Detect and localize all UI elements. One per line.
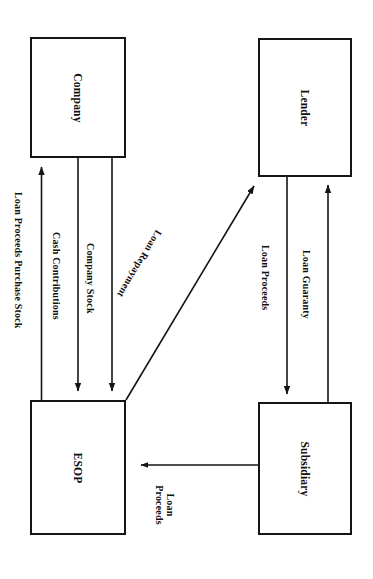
edge-label-loan-guaranty: Loan Guaranty [301, 250, 312, 319]
node-esop[interactable]: ESOP [30, 400, 126, 535]
edge-loan-repayment-line [126, 186, 254, 400]
node-company[interactable]: Company [30, 37, 126, 158]
edge-label-loan-proceeds-subsidiary-line1: Loan [165, 474, 176, 536]
edge-label-loan-proceeds-lender: Loan Proceeds [260, 245, 271, 310]
node-subsidiary-label: Subsidiary [299, 441, 311, 496]
node-company-label: Company [72, 73, 84, 122]
edge-label-loan-proceeds-subsidiary: Loan Proceeds [154, 474, 175, 536]
edge-label-loan-proceeds-subsidiary-line2: Proceeds [154, 474, 165, 536]
edge-label-cash-contributions: Cash Contributions [51, 232, 62, 320]
node-lender[interactable]: Lender [258, 38, 352, 177]
node-esop-label: ESOP [72, 452, 84, 483]
diagram-canvas: Company Lender ESOP Subsidiary Loan Proc… [0, 0, 373, 579]
node-lender-label: Lender [299, 89, 311, 126]
edge-label-loan-proceeds-purchase-stock: Loan Proceeds Purchase Stock [13, 192, 24, 329]
node-subsidiary[interactable]: Subsidiary [258, 402, 352, 535]
edge-label-company-stock: Company Stock [85, 243, 96, 314]
edge-label-loan-repayment: Loan Repayment [115, 228, 164, 299]
